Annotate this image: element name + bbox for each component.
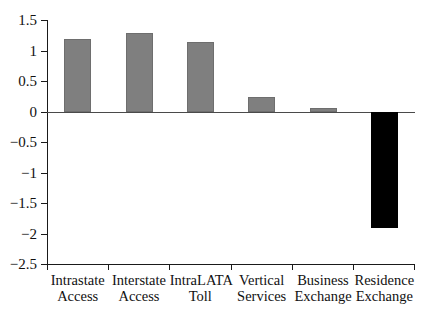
x-tick-mark [47,264,48,270]
category-label-line-1: Interstate [108,272,169,288]
y-tick-label: −2.5 [10,257,37,272]
bar [248,97,275,112]
category-label-line-2: Toll [170,288,231,304]
y-tick-label: 0 [30,105,38,120]
bar [310,108,337,112]
x-tick-mark [292,264,293,270]
y-tick-label: −0.5 [10,135,37,150]
y-tick-mark [41,51,47,52]
zero-baseline [47,112,415,113]
x-tick-mark [108,264,109,270]
category-label-line-2: Exchange [354,288,415,304]
category-label-line-2: Access [47,288,108,304]
y-tick-mark [41,81,47,82]
x-axis-category-label: ResidenceExchange [354,272,415,304]
x-axis-category-label: IntraLATAToll [170,272,231,304]
x-axis-category-label: VerticalServices [231,272,292,304]
x-tick-mark [231,264,232,270]
y-tick-mark [41,234,47,235]
y-tick-label: −1 [21,166,37,181]
category-label-line-2: Exchange [292,288,353,304]
y-tick-label: −2 [21,227,37,242]
y-tick-label: 1.5 [18,13,37,28]
x-tick-mark [414,264,415,270]
category-label-line-1: Vertical [231,272,292,288]
x-tick-mark [353,264,354,270]
bar [126,33,153,112]
bar [371,112,398,228]
y-tick-mark [41,20,47,21]
y-tick-label: 0.5 [18,74,37,89]
category-label-line-1: Business [292,272,353,288]
y-tick-label: −1.5 [10,196,37,211]
x-axis-category-label: IntrastateAccess [47,272,108,304]
category-label-line-2: Services [231,288,292,304]
x-axis-category-label: BusinessExchange [292,272,353,304]
y-tick-mark [41,203,47,204]
y-tick-mark [41,112,47,113]
bar [64,39,91,112]
category-label-line-2: Access [108,288,169,304]
bar-chart: 1.5 1 0.5 0 −0.5 −1 −1.5 −2 −2.5 Intrast… [0,0,426,311]
y-tick-label: 1 [30,44,38,59]
x-tick-mark [169,264,170,270]
category-label-line-1: Intrastate [47,272,108,288]
category-label-line-1: Residence [354,272,415,288]
y-axis-line [47,20,48,265]
y-tick-mark [41,173,47,174]
category-label-line-1: IntraLATA [170,272,231,288]
bar [187,42,214,112]
x-axis-category-label: InterstateAccess [108,272,169,304]
y-tick-mark [41,142,47,143]
